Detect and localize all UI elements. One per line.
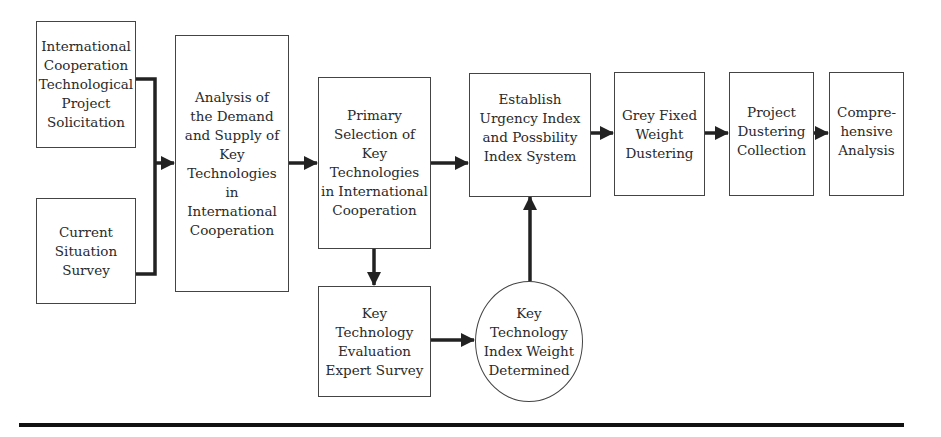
node-establish-index-system: Establish Urgency Index and Possbility I… [469, 73, 591, 197]
node-expert-survey: Key Technology Evaluation Expert Survey [318, 286, 431, 397]
node-current-situation-survey: Current Situation Survey [36, 198, 136, 304]
node-index-weight-determined: Key Technology Index Weight Determined [475, 281, 583, 402]
node-international-cooperation-solicitation: International Cooperation Technological … [36, 21, 136, 148]
node-comprehensive-analysis: Compre- hensive Analysis [829, 72, 904, 196]
edge-n1-merge [135, 79, 155, 274]
connectors [0, 0, 941, 437]
node-primary-selection: Primary Selection of Key Technologies in… [318, 77, 431, 249]
node-grey-fixed-weight: Grey Fixed Weight Dustering [614, 72, 705, 196]
bottom-rule [19, 423, 904, 427]
node-demand-supply-analysis: Analysis of the Demand and Supply of Key… [175, 35, 289, 292]
node-project-dustering-collection: Project Dustering Collection [729, 72, 814, 196]
